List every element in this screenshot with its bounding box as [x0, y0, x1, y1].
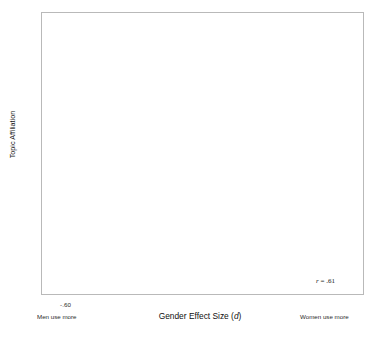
x-axis-label-paren: )	[239, 311, 242, 321]
x-axis-label-text: Gender Effect Size (	[159, 311, 234, 321]
scatter-plot-figure: Topic Affiliation Gender Effect Size (d)…	[0, 0, 385, 337]
x-tick-label: -.60	[46, 301, 86, 308]
x-axis-label: Gender Effect Size (d)	[120, 311, 280, 321]
correlation-value-text: = .61	[319, 277, 335, 285]
correlation-label: r = .61	[316, 277, 335, 285]
y-axis-label: Topic Affiliation	[8, 100, 17, 170]
x-axis-high-label: Women use more	[300, 313, 349, 320]
x-axis-low-label: Men use more	[37, 313, 77, 320]
annotation-leader-lines	[0, 0, 385, 337]
